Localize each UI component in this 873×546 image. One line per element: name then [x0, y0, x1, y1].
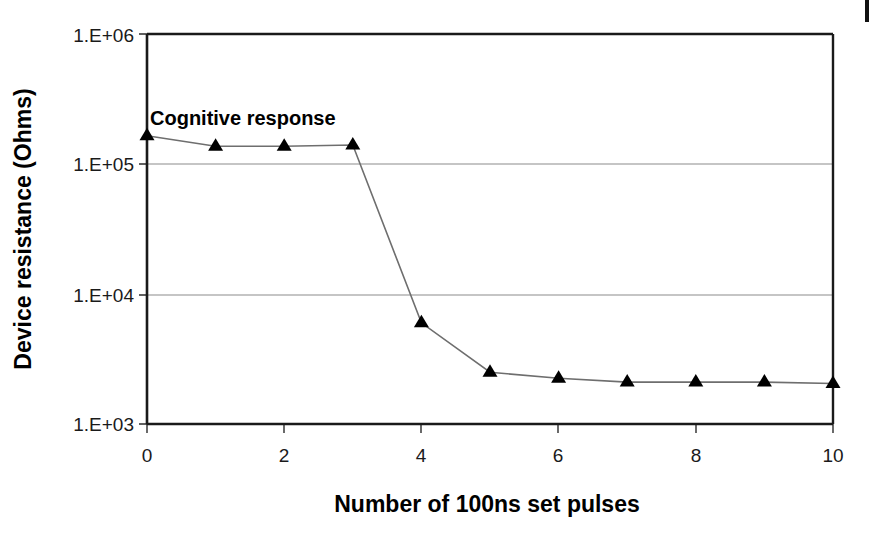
- x-tick-label-6: 6: [553, 445, 564, 466]
- annotation-cognitive-response: Cognitive response: [150, 107, 336, 129]
- x-tick-label-2: 2: [279, 445, 290, 466]
- x-tick-marks: [147, 424, 833, 433]
- x-tick-label-0: 0: [142, 445, 153, 466]
- resistance-vs-pulses-chart: 1.E+06 1.E+05 1.E+04 1.E+03 0 2 4 6 8 10…: [0, 0, 873, 546]
- x-tick-label-8: 8: [691, 445, 702, 466]
- y-tick-label-1e06: 1.E+06: [73, 25, 134, 46]
- x-tick-label-4: 4: [416, 445, 427, 466]
- x-axis-title: Number of 100ns set pulses: [334, 491, 640, 517]
- y-tick-label-1e03: 1.E+03: [73, 414, 134, 435]
- page-edge-artifact: [865, 0, 869, 22]
- x-tick-label-10: 10: [822, 445, 843, 466]
- y-axis-title: Device resistance (Ohms): [10, 88, 36, 369]
- y-tick-label-1e05: 1.E+05: [73, 154, 134, 175]
- y-tick-label-1e04: 1.E+04: [73, 285, 134, 306]
- chart-figure: 1.E+06 1.E+05 1.E+04 1.E+03 0 2 4 6 8 10…: [0, 0, 873, 546]
